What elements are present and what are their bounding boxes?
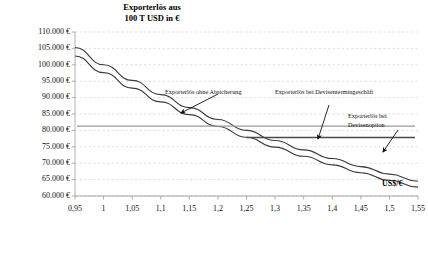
x-axis-tick-label: 1,15 [173,204,205,213]
annotation-arrow [318,105,329,139]
y-axis-tick-label: 80.000 € [6,125,70,134]
chart-figure: Exporterlös aus100 T USD in €110.000 €10… [0,0,428,255]
y-axis-tick-label: 60.000 € [6,191,70,200]
x-axis-tick-label: 1,45 [345,204,377,213]
chart-title-line-2: 100 T USD in € [82,13,222,24]
x-axis-tick-label: 1 [88,204,120,213]
y-axis-tick-label: 105.000 € [6,43,70,52]
y-axis-tick-label: 100.000 € [6,60,70,69]
y-axis-tick-label: 95.000 € [6,76,70,85]
y-axis-tick-label: 65.000 € [6,174,70,183]
x-axis-label: US$/€ [382,179,402,188]
x-axis-tick-label: 0,95 [59,204,91,213]
x-axis-tick-label: 1,4 [316,204,348,213]
x-axis-tick-label: 1,3 [259,204,291,213]
y-axis-tick-label: 110.000 € [6,27,70,36]
y-axis-tick-label: 70.000 € [6,158,70,167]
annotation-ohne-absicherung: Exporterlös ohne Absicherung [165,88,242,96]
x-axis-tick-label: 1,25 [231,204,263,213]
y-axis-tick-label: 85.000 € [6,109,70,118]
annotation-devisenoption-line-1: Exporterlös bei [348,112,387,120]
x-axis-tick-label: 1,35 [288,204,320,213]
x-axis-tick-label: 1,55 [402,204,428,213]
x-axis-tick-label: 1,05 [116,204,148,213]
annotation-devisenoption-line-2: Devisenoption [348,121,385,129]
y-axis-tick-label: 90.000 € [6,92,70,101]
x-axis-tick-label: 1,5 [373,204,405,213]
annotation-devisentermingeschaeft: Exporterlös bei Devisentermingeschäft [275,88,373,96]
x-axis-tick-label: 1,1 [145,204,177,213]
y-axis-tick-label: 75.000 € [6,142,70,151]
x-axis-tick-label: 1,2 [202,204,234,213]
chart-title-line-1: Exporterlös aus [82,2,222,13]
annotation-arrow [383,130,398,152]
